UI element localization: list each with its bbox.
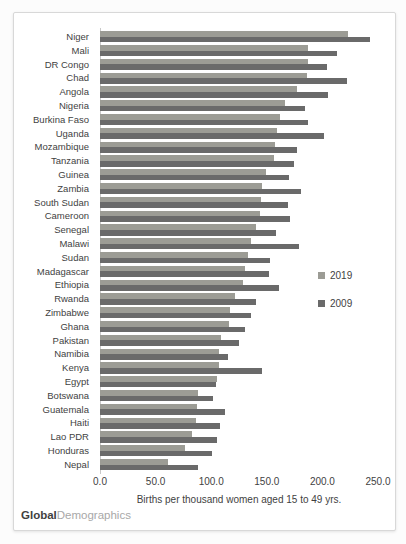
bar-2009 (100, 244, 299, 250)
legend-label: 2019 (330, 270, 352, 281)
chart-row: DR Congo (14, 58, 395, 72)
bar-2009 (100, 354, 228, 360)
category-label: Namibia (14, 347, 100, 361)
category-label: Ghana (14, 320, 100, 334)
category-label: Malawi (14, 237, 100, 251)
bar-2009 (100, 230, 276, 236)
bar-group (100, 362, 395, 373)
chart-row: Lao PDR (14, 430, 395, 444)
bar-2009 (100, 92, 328, 98)
category-label: Guatemala (14, 403, 100, 417)
category-label: Kenya (14, 361, 100, 375)
chart-row: Sudan (14, 251, 395, 265)
chart-row: Guinea (14, 168, 395, 182)
bar-group (100, 404, 395, 415)
bar-group (100, 128, 395, 139)
bar-2009 (100, 64, 327, 70)
bar-group (100, 238, 395, 249)
bar-2009 (100, 451, 212, 457)
category-label: Haiti (14, 416, 100, 430)
category-label: Egypt (14, 375, 100, 389)
bar-2009 (100, 147, 297, 153)
bar-2009 (100, 271, 269, 277)
x-tick-label: 200.0 (310, 476, 335, 487)
category-label: South Sudan (14, 196, 100, 210)
bar-group (100, 100, 395, 111)
bar-2009 (100, 133, 324, 139)
legend-entry-2009: 2009 (318, 298, 352, 309)
bar-group (100, 142, 395, 153)
bar-2009 (100, 202, 288, 208)
chart-row: Guatemala (14, 403, 395, 417)
chart-row: Haiti (14, 416, 395, 430)
category-label: Lao PDR (14, 430, 100, 444)
category-label: Cameroon (14, 209, 100, 223)
bar-group (100, 349, 395, 360)
bar-2009 (100, 396, 213, 402)
category-label: Guinea (14, 168, 100, 182)
bar-group (100, 197, 395, 208)
chart-row: Malawi (14, 237, 395, 251)
chart-row: Mali (14, 44, 395, 58)
x-tick-label: 250.0 (365, 476, 390, 487)
bar-group (100, 45, 395, 56)
category-label: Madagascar (14, 265, 100, 279)
category-label: Mali (14, 44, 100, 58)
legend-swatch-icon (318, 300, 325, 307)
bar-2009 (100, 423, 220, 429)
chart-row: Egypt (14, 375, 395, 389)
category-label: Zimbabwe (14, 306, 100, 320)
bar-2009 (100, 51, 337, 57)
bar-2009 (100, 175, 289, 181)
bar-2009 (100, 409, 225, 415)
bar-2009 (100, 327, 245, 333)
bar-2009 (100, 106, 305, 112)
chart-row: Honduras (14, 444, 395, 458)
category-label: Pakistan (14, 334, 100, 348)
chart-row: Namibia (14, 347, 395, 361)
bar-2009 (100, 299, 256, 305)
category-label: Ethiopia (14, 278, 100, 292)
chart-row: Senegal (14, 223, 395, 237)
category-label: Botswana (14, 389, 100, 403)
category-label: DR Congo (14, 58, 100, 72)
bar-group (100, 183, 395, 194)
bar-group (100, 418, 395, 429)
chart-container: NigerMaliDR CongoChadAngolaNigeriaBurkin… (13, 12, 396, 531)
category-label: Mozambique (14, 140, 100, 154)
chart-row: Angola (14, 85, 395, 99)
bar-group (100, 114, 395, 125)
bar-group (100, 252, 395, 263)
chart-row: Cameroon (14, 209, 395, 223)
bar-group (100, 445, 395, 456)
chart-row: Mozambique (14, 140, 395, 154)
chart-row: Zambia (14, 182, 395, 196)
bar-group (100, 211, 395, 222)
x-axis-ticks: 0.050.0100.0150.0200.0250.0 (14, 476, 395, 489)
bar-group (100, 73, 395, 84)
bar-group (100, 390, 395, 401)
brand-footer: GlobalDemographics (21, 509, 131, 521)
chart-row: Nepal (14, 458, 395, 472)
bar-group (100, 155, 395, 166)
chart-row: Uganda (14, 127, 395, 141)
legend-label: 2009 (330, 298, 352, 309)
chart-row: Botswana (14, 389, 395, 403)
chart-row: Kenya (14, 361, 395, 375)
bar-2009 (100, 340, 239, 346)
bar-group (100, 31, 395, 42)
bar-2009 (100, 161, 294, 167)
brand-demographics: Demographics (57, 509, 131, 521)
bar-group (100, 86, 395, 97)
category-label: Burkina Faso (14, 113, 100, 127)
bar-group (100, 169, 395, 180)
bar-rows: NigerMaliDR CongoChadAngolaNigeriaBurkin… (14, 30, 395, 472)
chart-row: Burkina Faso (14, 113, 395, 127)
legend-entry-2019: 2019 (318, 270, 352, 281)
chart-legend: 20192009 (318, 270, 352, 326)
category-label: Niger (14, 30, 100, 44)
bar-group (100, 459, 395, 470)
bar-2009 (100, 285, 279, 291)
chart-row: Pakistan (14, 334, 395, 348)
bar-2009 (100, 216, 290, 222)
